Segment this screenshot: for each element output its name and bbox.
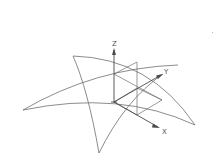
surface2-edge-right: [99, 74, 163, 153]
x-axis-label: X: [162, 128, 167, 136]
surface-edge-lower: [23, 103, 195, 125]
y-axis-label: Y: [163, 68, 169, 76]
x-axis-arrow-icon: [152, 124, 160, 129]
x-axis: [114, 102, 158, 127]
z-axis-label: Z: [112, 40, 117, 48]
surface-diagram: Z Y X: [0, 0, 215, 163]
speck: [212, 32, 213, 33]
y-axis: [114, 75, 161, 102]
z-axis-arrow-icon: [112, 48, 116, 55]
plane-line-2: [114, 74, 162, 100]
surface2-edge-left: [73, 56, 99, 153]
plane-line-4: [137, 88, 162, 100]
